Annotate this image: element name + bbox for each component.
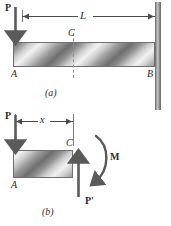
dimension-extension-right-a: [155, 10, 156, 22]
arrow-overlay: [0, 0, 171, 226]
point-label-a-b: A: [11, 180, 17, 190]
beam-body-b: [13, 150, 73, 178]
load-label-b: P: [5, 111, 11, 121]
point-label-a-a: A: [11, 69, 17, 79]
load-label-a: P: [5, 3, 11, 13]
reaction-label-b: P': [85, 196, 94, 206]
moment-label-b: M: [110, 152, 119, 162]
section-label-c-a: C: [68, 28, 75, 38]
caption-b: (b): [42, 207, 54, 217]
dimension-extension-left-b: [15, 114, 16, 126]
section-label-c-b: C: [66, 138, 73, 148]
dimension-label-x: x: [40, 115, 44, 125]
figure-canvas: P L C A B (a) P x C A P' M (b): [0, 0, 171, 226]
caption-a: (a): [45, 88, 57, 98]
moment-arc-b: [95, 136, 106, 182]
dimension-label-L: L: [80, 10, 86, 21]
point-label-b-a: B: [147, 69, 153, 79]
section-cut-line-a: [73, 33, 74, 78]
beam-body-a: [13, 42, 155, 67]
dimension-extension-right-b: [73, 114, 74, 146]
